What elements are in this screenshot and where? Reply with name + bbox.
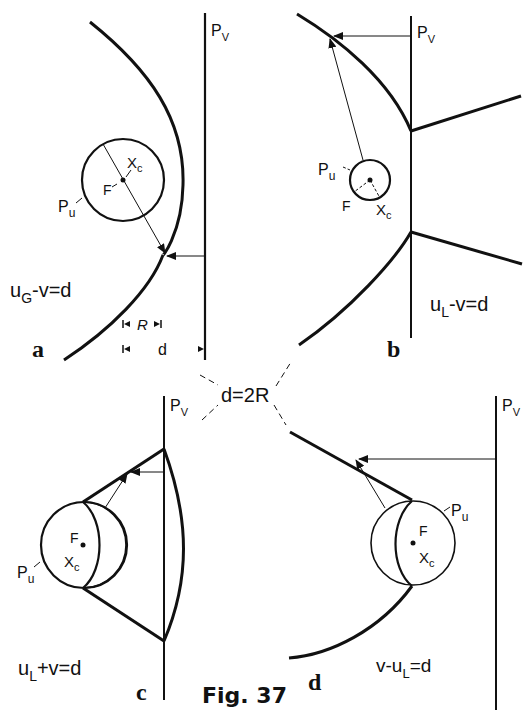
equation-c: uL+v=d [18,657,81,684]
xc-leader [370,180,380,198]
xc-label: Xc [376,201,392,221]
equation-a: uG-v=d [10,279,71,306]
offset-circle-arc [83,502,126,588]
leader-bottom-right [274,405,286,425]
inner-arc [396,501,413,586]
focus-label: F [70,530,79,546]
lower-curve [289,586,412,658]
pu-leader [343,167,350,170]
panel-letter-a: a [32,336,44,362]
focus-leader [354,180,370,192]
upper-curve [290,432,412,500]
plane-pv-label: PV [502,397,521,418]
focus-label: F [419,523,428,539]
focus-point [81,543,86,548]
pu-leader [76,198,82,203]
dim-d-label: d [158,341,167,358]
plane-pv-label: PV [170,397,189,418]
figure-title: Fig. 37 [202,683,287,708]
panel-letter-d: d [308,669,322,695]
equation-d: v-uL=d [376,655,431,681]
lower-wedge-line [83,588,164,641]
figure-37-diagram: PV F Xc Pu uG-v=d R [0,0,529,721]
lower-branch [411,232,522,264]
upper-curve [297,14,411,131]
panel-d: PV Pu F Xc v-uL=d d [289,396,521,710]
upper-wedge-line [83,449,164,502]
leader-top-right [276,362,291,386]
focus-label: F [342,198,351,214]
panel-c: PV F Xc Pu uL+v=d c [17,396,189,705]
leader-top-left [200,375,218,385]
plane-pv-label: PV [211,22,230,43]
panel-a: PV F Xc Pu uG-v=d R [10,13,230,362]
xc-leader [126,170,131,177]
pu-label: Pu [318,161,335,183]
pu-label: Pu [451,502,468,524]
leader-bottom-left [202,405,218,420]
xc-label: Xc [127,154,143,174]
upper-branch [411,96,521,131]
panel-b: PV F Xc Pu uL-v=d b [297,14,522,362]
equation-b: uL-v=d [430,293,488,320]
center-relation: d=2R [200,362,291,425]
xc-label: Xc [64,553,80,573]
pu-label: Pu [17,564,34,586]
focus-leader [112,184,117,187]
panel-letter-b: b [387,336,400,362]
pu-leader [444,507,450,511]
pu-label: Pu [58,198,75,220]
focus-point [411,541,416,546]
lower-curve [299,232,411,345]
parabola-curve [64,22,183,360]
dimension-d: d [123,341,204,358]
dimension-R: R [123,316,161,333]
d-equals-2r-label: d=2R [221,384,269,406]
xc-label: Xc [419,549,435,569]
plane-pv-label: PV [417,24,436,45]
dim-r-label: R [137,316,148,333]
panel-letter-c: c [136,679,147,705]
focus-label: F [103,182,112,198]
outer-arc [164,449,184,641]
pu-leader [34,562,40,567]
